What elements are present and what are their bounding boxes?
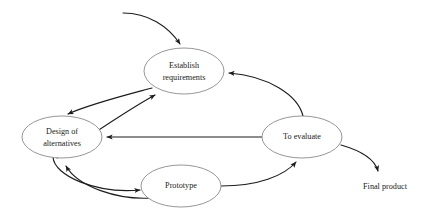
edge-prototype-to-design	[66, 166, 151, 198]
terminal-layer: Final product	[363, 182, 408, 191]
node-layer: Establish requirements Design of alterna…	[22, 48, 342, 207]
diagram-canvas: Establish requirements Design of alterna…	[0, 0, 423, 220]
node-label-to-evaluate: To evaluate	[283, 132, 321, 141]
node-label-prototype: Prototype	[165, 181, 197, 190]
node-design-of-alternatives[interactable]: Design of alternatives	[22, 116, 102, 158]
node-shape-design-of-alternatives[interactable]	[22, 116, 102, 158]
edge-entry-to-establish	[123, 13, 180, 44]
node-to-evaluate[interactable]: To evaluate	[262, 116, 342, 158]
node-shape-establish-requirements[interactable]	[144, 48, 224, 94]
node-establish-requirements[interactable]: Establish requirements	[144, 48, 224, 94]
terminal-label-final-product: Final product	[363, 182, 408, 191]
edge-prototype-to-evaluate	[221, 162, 296, 186]
node-label-establish-requirements-line2: requirements	[163, 73, 206, 82]
edge-design-to-prototype	[53, 157, 140, 191]
flow-diagram: Establish requirements Design of alterna…	[0, 0, 423, 220]
edge-layer	[53, 13, 378, 198]
edge-evaluate-to-final-product	[341, 145, 378, 171]
node-label-design-of-alternatives-line1: Design of	[46, 127, 78, 136]
node-prototype[interactable]: Prototype	[141, 165, 221, 207]
node-label-establish-requirements-line1: Establish	[169, 61, 199, 70]
node-label-design-of-alternatives-line2: alternatives	[43, 139, 81, 148]
edge-establish-to-design	[68, 88, 152, 114]
edge-evaluate-to-establish	[229, 73, 303, 116]
